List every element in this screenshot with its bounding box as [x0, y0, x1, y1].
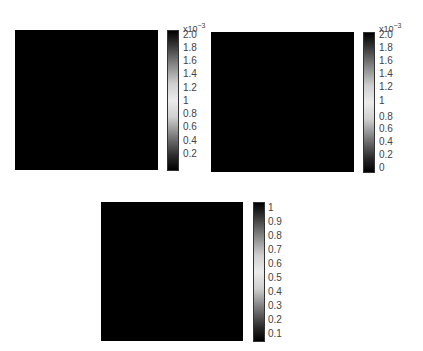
tick: 0.5 — [268, 273, 282, 283]
colorbar-2 — [363, 32, 375, 173]
tick: 0.8 — [183, 109, 197, 119]
tick: 1 — [183, 96, 189, 106]
tick: 0.8 — [268, 231, 282, 241]
tick: 0 — [379, 163, 385, 173]
heatmap-panel-1 — [15, 30, 158, 170]
tick: 0.4 — [268, 287, 282, 297]
tick: 1.2 — [379, 82, 393, 92]
tick: 1.6 — [379, 56, 393, 66]
tick: 1.6 — [183, 56, 197, 66]
heatmap-panel-2 — [211, 32, 354, 172]
tick: 2.0 — [379, 30, 393, 40]
tick: 0.7 — [268, 245, 282, 255]
tick: 0.3 — [268, 301, 282, 311]
tick: 2.0 — [183, 30, 197, 40]
tick: 1.8 — [379, 43, 393, 53]
heatmap-panel-3 — [101, 202, 243, 341]
tick: 1 — [379, 96, 385, 106]
tick: 0.9 — [268, 217, 282, 227]
tick: 0.1 — [268, 329, 282, 339]
tick: 0.2 — [183, 149, 197, 159]
tick: 0.2 — [268, 315, 282, 325]
tick: 0.8 — [379, 112, 393, 122]
tick: 1.4 — [183, 69, 197, 79]
tick: 0.4 — [379, 137, 393, 147]
tick: 1 — [268, 203, 274, 213]
tick: 1.8 — [183, 43, 197, 53]
tick: 1.4 — [379, 69, 393, 79]
tick: 1.2 — [183, 83, 197, 93]
colorbar-1 — [167, 30, 179, 171]
colorbar-3 — [253, 202, 265, 342]
tick: 0.2 — [379, 150, 393, 160]
tick: 0.4 — [183, 136, 197, 146]
tick: 0.6 — [183, 122, 197, 132]
tick: 0.6 — [268, 259, 282, 269]
tick: 0.6 — [379, 124, 393, 134]
